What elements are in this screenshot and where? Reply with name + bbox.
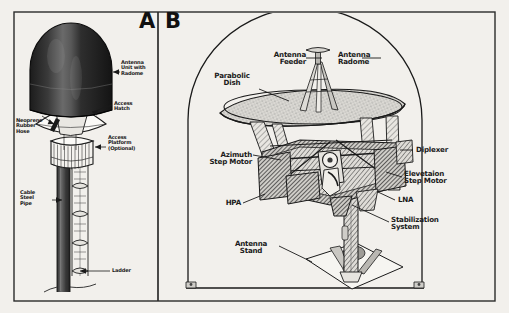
label-antenna-radome: Antenna Radome: [338, 51, 396, 66]
label-access-hatch: Access Hatch: [114, 101, 154, 112]
access-platform-shape: [51, 137, 93, 169]
label-cable-steel-pipe: Cable Steel Pipe: [20, 190, 54, 206]
panel-letter-b: B: [165, 11, 181, 32]
label-lna: LNA: [398, 196, 428, 203]
label-access-platform-optional: Access Platform (Optional): [108, 135, 156, 151]
figure-container: A B Antenna Unit with Radome Access Hatc…: [0, 0, 509, 313]
label-hpa: HPA: [213, 199, 241, 206]
radome-dome-shape: [30, 23, 112, 117]
label-neoprene-rubber-hose: Neoprene Rubber Hose: [16, 118, 56, 134]
label-elevetaion-step-motor: Elevetaion Step Motor: [404, 170, 466, 185]
label-antenna-feeder: Antenna Feeder: [250, 51, 306, 66]
label-ladder: Ladder: [112, 268, 152, 273]
diagram-artwork: [0, 0, 509, 313]
panel-letter-a: A: [139, 11, 155, 32]
label-antenna-stand: Antenna Stand: [223, 240, 279, 255]
label-parabolic-dish: Parabolic Dish: [204, 72, 260, 87]
label-antenna-unit-with-radome: Antenna Unit with Radome: [121, 60, 161, 76]
label-azimuth-step-motor: Azimuth Step Motor: [194, 151, 252, 166]
label-stabilization-system: Stabilization System: [391, 216, 453, 231]
label-diplexer: Diplexer: [416, 146, 470, 153]
